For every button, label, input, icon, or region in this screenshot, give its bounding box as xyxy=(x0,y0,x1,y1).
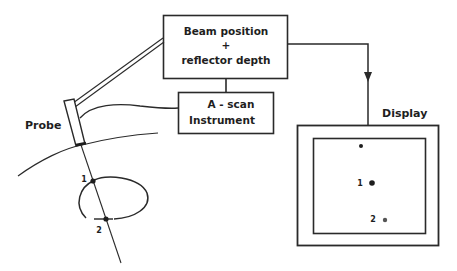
display-surface-dot xyxy=(359,144,363,148)
beam-position-label-plus: + xyxy=(222,39,231,51)
beam-to-display-arrow xyxy=(287,44,372,125)
display-monitor: 1 2 xyxy=(298,126,439,246)
reflector-point-1 xyxy=(90,178,95,183)
reflector-point-2-label: 2 xyxy=(96,226,102,235)
ascan-label-line1: A - scan xyxy=(208,98,255,110)
display-label: Display xyxy=(382,107,427,120)
beam-position-block: Beam position + reflector depth xyxy=(164,16,288,79)
defect-outline-left xyxy=(79,181,93,218)
arrow-head-icon xyxy=(364,72,372,82)
display-reflector-1-dot xyxy=(369,180,375,186)
diagram-canvas: Beam position + reflector depth A - scan… xyxy=(0,0,457,271)
ascan-instrument-block: A - scan Instrument xyxy=(179,93,274,134)
defect-outline-right xyxy=(93,177,148,219)
probe-cable xyxy=(80,105,178,118)
beam-position-label-line1: Beam position xyxy=(184,25,269,37)
display-point-2-label: 2 xyxy=(370,215,376,224)
reflector-point-1-label: 1 xyxy=(81,175,87,184)
probe-position-arm xyxy=(73,38,164,107)
ultrasonic-beam-line xyxy=(81,145,121,263)
probe-label: Probe xyxy=(25,119,61,132)
probe xyxy=(64,99,86,146)
probe-body xyxy=(64,99,85,146)
display-reflector-2-dot xyxy=(383,218,387,222)
display-outer-frame xyxy=(298,126,439,246)
test-surface-arc xyxy=(18,133,158,176)
arrow-line xyxy=(287,44,368,125)
reflector-point-2 xyxy=(103,216,108,221)
ascan-label-line2: Instrument xyxy=(189,114,255,126)
beam-position-label-line3: reflector depth xyxy=(181,54,270,66)
display-point-1-label: 1 xyxy=(357,179,363,188)
